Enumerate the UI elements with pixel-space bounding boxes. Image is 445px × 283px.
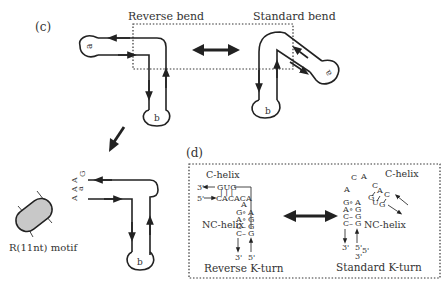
- svg-text:G: G: [248, 229, 254, 238]
- standard-bend-label: Standard bend: [253, 10, 336, 23]
- standard-c-helix: C-helix: [385, 168, 419, 179]
- reverse-bend-structure: a b: [80, 36, 170, 126]
- loop-a-label: a: [84, 43, 94, 49]
- diagonal-arrow: [109, 127, 124, 152]
- loop-a-rotated-label: a: [322, 68, 334, 78]
- svg-text:3': 3': [235, 253, 242, 262]
- standard-bend-structure: a b: [252, 32, 339, 118]
- svg-text:5': 5': [362, 246, 369, 255]
- svg-text:A: A: [360, 172, 367, 181]
- nuc-a3: A: [70, 195, 79, 202]
- svg-text:A: A: [376, 186, 383, 195]
- reverse-k-turn: C-helix 3' GUG | | | 5' CACACA A G ∘ A A…: [197, 169, 284, 274]
- motif-loop-a: a: [76, 186, 85, 191]
- k-turn-diagram: (c) Reverse bend Standard bend a b: [0, 0, 445, 283]
- loop-b2-label: b: [265, 106, 271, 116]
- svg-text:5': 5': [248, 253, 255, 262]
- loop-b-label: b: [154, 113, 160, 123]
- standard-nc-helix: NC-helix: [364, 219, 407, 230]
- svg-text:C: C: [384, 190, 390, 199]
- nuc-g: G: [78, 171, 87, 177]
- reverse-k-turn-title: Reverse K-turn: [204, 262, 284, 274]
- panel-d-label: (d): [186, 146, 203, 160]
- motif-loop-b: b: [137, 257, 143, 267]
- nuc-a1: A: [70, 177, 79, 184]
- svg-text:3': 3': [355, 252, 362, 261]
- reverse-bend-label: Reverse bend: [128, 10, 204, 23]
- svg-text:–: –: [242, 229, 246, 238]
- motif-shape: [11, 194, 56, 236]
- svg-text:–: –: [349, 219, 353, 228]
- motif-label: R(11nt) motif: [9, 242, 78, 253]
- reverse-c-helix: C-helix: [206, 169, 240, 180]
- svg-text:C: C: [351, 173, 357, 182]
- svg-text:3': 3': [342, 243, 349, 252]
- standard-k-turn: C A C-helix A C A C G U G G ∘ A A ∘ G C …: [336, 168, 422, 273]
- standard-k-turn-title: Standard K-turn: [336, 261, 422, 273]
- reverse-nc-helix: NC-helix: [202, 219, 245, 230]
- double-arrow-c: [192, 44, 240, 56]
- bend-region-box: [133, 24, 293, 69]
- panel-c-label: (c): [35, 20, 51, 34]
- svg-text:G: G: [355, 219, 361, 228]
- r11nt-motif: R(11nt) motif: [9, 191, 78, 253]
- double-arrow-d: [283, 210, 338, 222]
- motif-structure: b: [88, 180, 158, 270]
- svg-text:5': 5': [197, 194, 204, 203]
- svg-text:A: A: [343, 185, 350, 194]
- svg-text:3': 3': [197, 183, 204, 192]
